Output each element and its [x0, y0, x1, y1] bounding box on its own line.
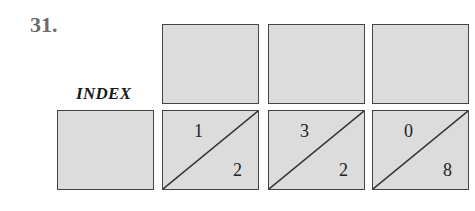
bottom-right-value: 8	[443, 160, 452, 181]
index-label: INDEX	[76, 84, 131, 104]
top-box-1	[162, 24, 259, 104]
diagonal-line	[269, 111, 364, 189]
bottom-right-value: 2	[339, 160, 348, 181]
diagonal-line	[163, 111, 258, 189]
top-box-3	[372, 24, 469, 104]
index-box	[57, 110, 154, 190]
top-left-value: 1	[194, 121, 203, 142]
top-box-2	[268, 24, 365, 104]
split-box-2: 3 2	[268, 110, 365, 190]
problem-number: 31.	[30, 12, 58, 38]
top-left-value: 3	[300, 121, 309, 142]
top-left-value: 0	[404, 121, 413, 142]
bottom-right-value: 2	[233, 160, 242, 181]
diagonal-line	[373, 111, 468, 189]
split-box-1: 1 2	[162, 110, 259, 190]
split-box-3: 0 8	[372, 110, 469, 190]
